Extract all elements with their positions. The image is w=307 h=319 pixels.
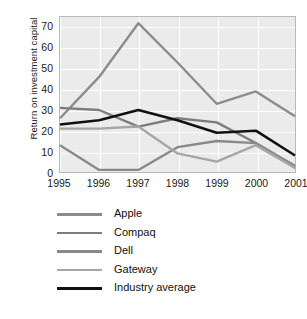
x-axis-tick-label: 1999: [197, 177, 237, 189]
legend-item-dell: Dell: [57, 242, 287, 260]
x-axis-tick-labels: 1995199619971998199920002001: [0, 177, 307, 193]
y-axis-tick-label: 70: [27, 21, 53, 31]
chart-legend: AppleCompaqDellGatewayIndustry average: [0, 205, 307, 319]
legend-item-compaq: Compaq: [57, 224, 287, 242]
legend-item-apple: Apple: [57, 205, 287, 223]
plot-area: [59, 16, 296, 173]
legend-label: Industry average: [114, 279, 196, 296]
y-axis-tick-label: 10: [27, 147, 53, 157]
y-axis-tick-label: 50: [27, 63, 53, 73]
legend-swatch: [57, 213, 102, 216]
legend-item-gateway: Gateway: [57, 261, 287, 279]
series-line-apple: [60, 23, 295, 118]
y-axis-tick-label: 60: [27, 42, 53, 52]
legend-swatch: [57, 232, 102, 235]
x-axis-tick-label: 2000: [237, 177, 277, 189]
chart-figure: Return on investment capital 01020304050…: [0, 0, 307, 319]
series-line-compaq: [60, 108, 295, 168]
legend-swatch: [57, 269, 102, 272]
y-axis-tick-labels: 010203040506070: [25, 0, 53, 198]
legend-label: Compaq: [114, 224, 156, 241]
y-axis-tick-label: 30: [27, 105, 53, 115]
gridline-horizontal: [60, 174, 295, 175]
x-axis-tick-label: 2001: [276, 177, 307, 189]
series-lines: [60, 17, 295, 172]
x-axis-tick-label: 1997: [118, 177, 158, 189]
series-line-dell: [60, 141, 295, 170]
legend-label: Dell: [114, 242, 133, 259]
legend-swatch: [57, 287, 102, 290]
x-axis-tick-label: 1995: [39, 177, 79, 189]
legend-swatch: [57, 250, 102, 253]
line-chart: Return on investment capital 01020304050…: [0, 0, 307, 198]
x-axis-tick-label: 1998: [158, 177, 198, 189]
legend-item-industry-average: Industry average: [57, 279, 287, 297]
legend-label: Gateway: [114, 261, 157, 278]
y-axis-tick-label: 20: [27, 126, 53, 136]
gridline-vertical: [297, 17, 298, 172]
y-axis-tick-label: 40: [27, 84, 53, 94]
legend-label: Apple: [114, 205, 142, 222]
x-axis-tick-label: 1996: [79, 177, 119, 189]
